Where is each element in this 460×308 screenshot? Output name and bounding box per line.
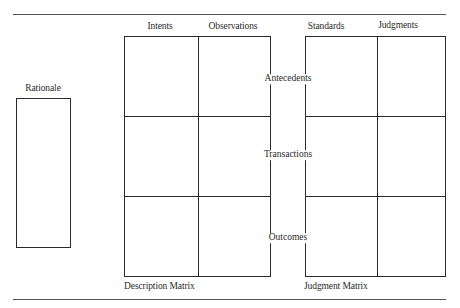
- column-header-observations: Observations: [209, 22, 258, 32]
- judgment-matrix-column-divider: [377, 36, 378, 277]
- rationale-box: [16, 98, 71, 248]
- judgment-matrix-title: Judgment Matrix: [304, 282, 368, 292]
- column-header-judgments: Judgments: [378, 21, 418, 31]
- description-matrix-title: Description Matrix: [124, 282, 195, 292]
- row-label-transactions: Transactions: [263, 150, 313, 160]
- judgment-matrix-row-divider-1: [305, 116, 446, 117]
- rationale-label: Rationale: [25, 84, 61, 94]
- judgment-matrix: [305, 36, 446, 277]
- description-matrix-column-divider: [198, 36, 199, 277]
- row-label-outcomes: Outcomes: [268, 233, 309, 243]
- judgment-matrix-row-divider-2: [305, 196, 446, 197]
- description-matrix-row-divider-1: [124, 116, 271, 117]
- top-rule: [13, 14, 446, 15]
- description-matrix-row-divider-2: [124, 196, 271, 197]
- column-header-intents: Intents: [147, 22, 172, 32]
- row-label-antecedents: Antecedents: [264, 74, 313, 84]
- bottom-rule: [13, 299, 446, 300]
- column-header-standards: Standards: [308, 22, 345, 32]
